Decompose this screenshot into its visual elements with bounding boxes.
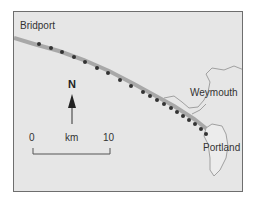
scale-end-label: 10 — [103, 132, 114, 143]
place-label-weymouth: Weymouth — [190, 87, 238, 98]
place-label-portland: Portland — [203, 142, 240, 153]
map-graphics — [14, 12, 243, 192]
place-label-bridport: Bridport — [20, 20, 55, 31]
coastline — [14, 38, 208, 130]
scale-unit-label: km — [65, 132, 78, 143]
scale-bar — [33, 148, 110, 154]
north-arrow-icon — [68, 94, 76, 108]
north-label: N — [68, 78, 76, 90]
scale-start-label: 0 — [29, 132, 35, 143]
route-dots — [37, 42, 208, 136]
map-frame: Bridport Weymouth Portland N 0 km 10 — [13, 11, 243, 192]
